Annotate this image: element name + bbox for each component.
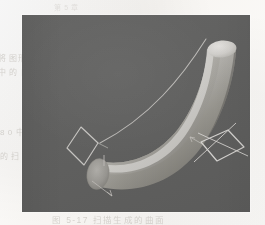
render-viewport [22,15,250,212]
scene-canvas [22,15,250,212]
scanned-page: 第 5 章 将 图形 绘制 中 的 曲 面 模型 8 0 中 的 扫 图 5-1… [0,0,265,225]
swept-tube [97,47,236,189]
ghost-text-left-3: 8 0 中 [0,126,24,137]
ghost-text-bottom: 图 5-17 扫描生成的曲面 [52,213,165,225]
ghost-text-left-4: 的 扫 [0,150,20,161]
3d-scene [22,15,250,212]
ghost-text-top: 第 5 章 [54,2,79,12]
